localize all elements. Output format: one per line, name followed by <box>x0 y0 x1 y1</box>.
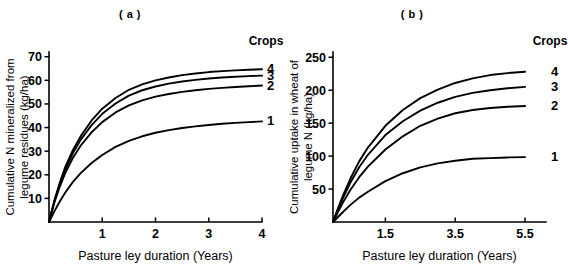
panel-b-plot: 501001502002501.53.55.54321CropsPasture … <box>284 0 568 277</box>
x-tick-label: 4 <box>259 227 266 241</box>
y-axis-title-line1: Cumulative uptake in wheat of <box>288 59 300 214</box>
x-axis-title: Pasture ley duration (Years) <box>362 249 516 263</box>
series-label-4: 4 <box>551 64 559 79</box>
y-tick-label: 10 <box>28 192 42 206</box>
y-tick-label: 20 <box>28 168 42 182</box>
y-axis-title-line2: legume residues (kg/ha) <box>18 75 30 199</box>
x-tick-label: 3.5 <box>447 227 464 241</box>
panel-a-plot: 1020304050607012344321CropsPasture ley d… <box>0 0 284 277</box>
series-label-1: 1 <box>267 113 274 128</box>
y-tick-label: 50 <box>28 97 42 111</box>
y-axis-title-line2: legume N (kg/ha) <box>302 93 314 181</box>
series-label-3: 3 <box>551 79 558 94</box>
legend-title: Crops <box>249 34 284 48</box>
x-axis-title: Pasture ley duration (Years) <box>78 249 232 263</box>
y-tick-label: 30 <box>28 145 42 159</box>
x-tick-label: 5.5 <box>516 227 533 241</box>
y-tick-label: 250 <box>305 51 326 65</box>
series-label-2: 2 <box>551 98 558 113</box>
y-tick-label: 50 <box>312 183 326 197</box>
y-tick-label: 60 <box>28 74 42 88</box>
series-curve-4 <box>333 72 525 222</box>
x-tick-label: 1 <box>99 227 106 241</box>
series-curve-1 <box>333 157 525 222</box>
figure-root: ( a ) 1020304050607012344321CropsPasture… <box>0 0 568 277</box>
chart-panel-b: ( b ) 501001502002501.53.55.54321CropsPa… <box>284 0 568 277</box>
series-label-2: 2 <box>267 78 274 93</box>
series-curve-2 <box>49 86 262 222</box>
series-label-1: 1 <box>551 149 558 164</box>
x-tick-label: 3 <box>205 227 212 241</box>
chart-panel-a: ( a ) 1020304050607012344321CropsPasture… <box>0 0 284 277</box>
y-tick-label: 40 <box>28 121 42 135</box>
y-tick-label: 70 <box>28 50 42 64</box>
x-tick-label: 2 <box>152 227 159 241</box>
legend-title: Crops <box>533 34 568 48</box>
x-tick-label: 1.5 <box>377 227 394 241</box>
axis-spines <box>333 52 546 222</box>
y-axis-title-line1: Cumulative N mineralized from <box>4 58 16 215</box>
